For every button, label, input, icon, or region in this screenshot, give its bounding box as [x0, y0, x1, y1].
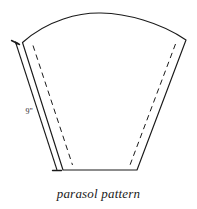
panel-outline — [23, 13, 187, 170]
figure-caption: parasol pattern — [0, 186, 197, 202]
pattern-drawing: 9" — [0, 0, 197, 209]
parasol-pattern-figure: 9" parasol pattern — [0, 0, 197, 209]
side-dimension-label: 9" — [26, 107, 33, 116]
